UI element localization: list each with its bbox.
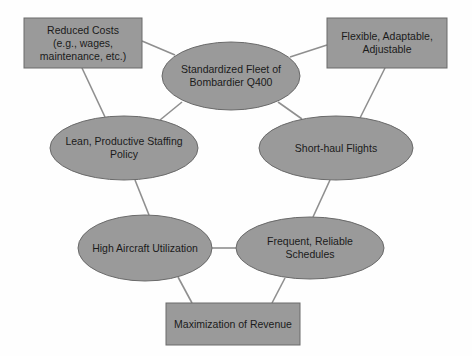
node-max-revenue: Maximization of Revenue	[166, 303, 300, 345]
node-standardized-fleet: Standardized Fleet of Bombardier Q400	[162, 42, 300, 110]
node-short-haul: Short-haul Flights	[259, 116, 413, 180]
node-lean-staffing: Lean, Productive Staffing Policy	[50, 116, 198, 180]
node-frequent-schedules: Frequent, Reliable Schedules	[236, 217, 384, 279]
node-reduced-costs: Reduced Costs (e.g., wages, maintenance,…	[24, 18, 142, 68]
node-high-utilization: High Aircraft Utilization	[78, 215, 212, 281]
node-flexible: Flexible, Adaptable, Adjustable	[327, 18, 447, 68]
diagram-canvas: Reduced Costs (e.g., wages, maintenance,…	[0, 0, 472, 356]
